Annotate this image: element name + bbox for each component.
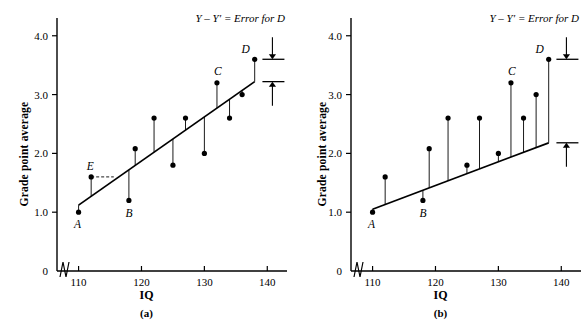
data-point [214, 80, 219, 85]
data-point [383, 174, 388, 179]
panel-caption-a: (a) [0, 307, 293, 319]
point-label-e: E [86, 160, 94, 172]
x-tick-label: 110 [71, 276, 88, 288]
data-point [183, 115, 188, 120]
y-tick-label: 4.0 [328, 30, 342, 42]
x-tick-label: 140 [259, 276, 276, 288]
y-tick-label: 0 [337, 265, 343, 277]
data-point [202, 151, 207, 156]
x-tick-label: 120 [133, 276, 150, 288]
x-axis-label-a: IQ [0, 288, 293, 303]
error-annotation-text: Y – Y′ = Error for D [196, 12, 286, 24]
y-tick-label: 1.0 [328, 206, 342, 218]
point-label-c: C [214, 65, 222, 77]
x-tick-label: 110 [365, 276, 382, 288]
figure-root: Grade point average 01.02.03.04.01101201… [0, 0, 587, 327]
y-tick-label: 3.0 [34, 89, 48, 101]
data-point [227, 115, 232, 120]
y-tick-label: 0 [43, 265, 49, 277]
data-point [370, 210, 375, 215]
data-point [496, 151, 501, 156]
data-point [89, 174, 94, 179]
data-point [126, 198, 131, 203]
data-point [133, 146, 138, 151]
error-annotation-text: Y – Y′ = Error for D [490, 12, 580, 24]
scatter-plot-a: 01.02.03.04.0110120130140AEBCDY – Y′ = E… [0, 0, 293, 327]
point-label-a: A [367, 218, 376, 230]
error-arrow-up-head [563, 143, 570, 148]
data-point [170, 163, 175, 168]
error-arrow-down-head [269, 54, 276, 59]
error-arrow-up-head [269, 82, 276, 87]
x-tick-label: 130 [490, 276, 507, 288]
y-tick-label: 3.0 [328, 89, 342, 101]
point-label-d: D [241, 43, 251, 55]
error-arrow-down-head [563, 54, 570, 59]
data-point [508, 80, 513, 85]
data-point [151, 115, 156, 120]
data-point [445, 115, 450, 120]
y-tick-label: 1.0 [34, 206, 48, 218]
chart-panel-a: Grade point average 01.02.03.04.01101201… [0, 0, 293, 327]
point-label-b: B [419, 207, 426, 219]
data-point [464, 163, 469, 168]
data-point [521, 115, 526, 120]
point-label-c: C [508, 65, 516, 77]
y-tick-label: 4.0 [34, 30, 48, 42]
x-axis-break-icon [354, 262, 363, 277]
x-tick-label: 130 [196, 276, 213, 288]
data-point [534, 92, 539, 97]
data-point [427, 146, 432, 151]
data-point [546, 57, 551, 62]
x-tick-label: 120 [427, 276, 444, 288]
x-tick-label: 140 [553, 276, 570, 288]
data-point [420, 198, 425, 203]
point-label-a: A [73, 218, 82, 230]
chart-panel-b: Grade point average 01.02.03.04.01101201… [294, 0, 587, 327]
x-axis-label-b: IQ [294, 288, 587, 303]
regression-line [79, 82, 255, 206]
data-point [240, 92, 245, 97]
panel-caption-b: (b) [294, 307, 587, 319]
scatter-plot-b: 01.02.03.04.0110120130140ABCDY – Y′ = Er… [294, 0, 587, 327]
data-point [252, 57, 257, 62]
x-axis-break-icon [60, 262, 69, 277]
data-point [76, 210, 81, 215]
point-label-b: B [125, 207, 132, 219]
regression-line [373, 143, 549, 209]
point-label-d: D [535, 43, 545, 55]
y-tick-label: 2.0 [328, 147, 342, 159]
data-point [477, 115, 482, 120]
y-tick-label: 2.0 [34, 147, 48, 159]
